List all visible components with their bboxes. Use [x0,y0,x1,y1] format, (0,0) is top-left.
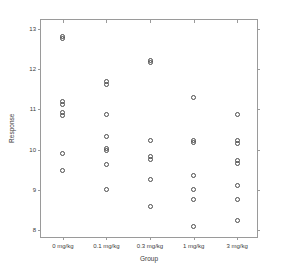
y-tick-mark [38,190,41,191]
data-point [104,79,109,84]
y-tick-mark-right [257,69,260,70]
y-tick-label: 8 [33,227,36,233]
x-axis-title: Group [40,256,258,263]
data-point [235,161,240,166]
x-tick-mark-top [106,20,107,23]
data-point [60,102,65,107]
y-tick-label: 9 [33,187,36,193]
data-point [148,138,153,143]
y-tick-mark [38,29,41,30]
x-tick-label: 1 mg/kg [183,243,204,249]
data-point [148,177,153,182]
plot-area: 8910111213 0 mg/kg0.1 mg/kg0.3 mg/kg1 mg… [40,19,258,238]
x-tick-mark [63,237,64,240]
y-tick-label: 12 [29,66,36,72]
data-point [235,183,240,188]
y-tick-mark-right [257,190,260,191]
data-point [148,157,153,162]
y-axis-title: Response [8,19,18,238]
x-tick-mark [237,237,238,240]
data-point [60,99,65,104]
y-tick-label: 11 [30,106,36,112]
x-tick-mark-top [237,20,238,23]
x-tick-mark-top [194,20,195,23]
data-point [235,112,240,117]
x-tick-mark-top [63,20,64,23]
y-tick-label: 13 [29,26,36,32]
data-point [104,148,109,153]
data-point [235,141,240,146]
data-point [148,204,153,209]
data-point [191,140,196,145]
data-point [191,197,196,202]
data-points-layer [41,20,257,237]
x-tick-label: 0.1 mg/kg [93,243,119,249]
data-point [60,113,65,118]
scatter-plot-figure: 8910111213 0 mg/kg0.1 mg/kg0.3 mg/kg1 mg… [0,0,282,274]
y-tick-mark-right [257,29,260,30]
x-tick-mark [106,237,107,240]
data-point [104,146,109,151]
data-point [191,173,196,178]
data-point [148,58,153,63]
data-point [104,82,109,87]
data-point [191,138,196,143]
data-point [60,151,65,156]
x-tick-label: 0 mg/kg [52,243,73,249]
data-point [60,34,65,39]
data-point [191,224,196,229]
data-point [104,112,109,117]
y-tick-mark [38,69,41,70]
x-tick-mark [194,237,195,240]
data-point [191,95,196,100]
data-point [235,197,240,202]
y-tick-mark-right [257,150,260,151]
data-point [60,110,65,115]
data-point [104,134,109,139]
data-point [60,168,65,173]
y-axis-title-text: Response [10,114,17,143]
y-tick-mark-right [257,230,260,231]
data-point [104,187,109,192]
data-point [191,187,196,192]
data-point [148,60,153,65]
y-tick-label: 10 [29,147,36,153]
y-tick-mark-right [257,109,260,110]
x-tick-label: 0.3 mg/kg [137,243,163,249]
y-tick-mark [38,150,41,151]
data-point [235,158,240,163]
x-tick-label: 3 mg/kg [227,243,248,249]
y-tick-mark [38,109,41,110]
data-point [235,138,240,143]
x-tick-mark [150,237,151,240]
data-point [60,36,65,41]
data-point [148,154,153,159]
y-tick-mark [38,230,41,231]
x-tick-mark-top [150,20,151,23]
data-point [235,218,240,223]
data-point [104,162,109,167]
